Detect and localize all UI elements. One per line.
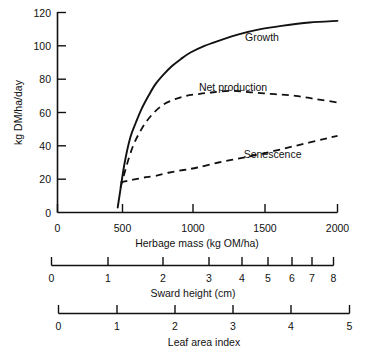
y-tick-label-120: 120: [33, 7, 51, 19]
sward-tick-label-6: 6: [289, 272, 295, 284]
primary-x-tick-labels: 0 500 1000 1500 2000: [55, 222, 350, 234]
primary-y-axis: [58, 12, 67, 213]
sward-tick-label-1: 1: [105, 272, 111, 284]
x-tick-label-0: 0: [55, 222, 61, 234]
sward-tick-label-2: 2: [160, 272, 166, 284]
series-label-net-production: Net production: [199, 81, 267, 93]
series-line-net-production: [121, 91, 338, 188]
x-tick-label-500: 500: [114, 222, 132, 234]
sward-tick-label-5: 5: [265, 272, 271, 284]
leaf-area-index-tick-labels: 0 1 2 3 4 5: [56, 320, 353, 332]
y-tick-label-60: 60: [39, 107, 51, 119]
sward-height-tick-labels: 0 1 2 3 4 5 6 7 8: [49, 272, 337, 284]
lai-tick-label-3: 3: [230, 320, 236, 332]
series-label-growth: Growth: [245, 31, 279, 43]
sward-tick-label-3: 3: [206, 272, 212, 284]
grassland-growth-figure: 120 100 80 60 40 20 0 kg DM/ha/day 0 500…: [0, 0, 368, 358]
x-axis-title: Herbage mass (kg OM/ha): [135, 237, 259, 249]
sward-height-axis: [52, 257, 334, 266]
sward-tick-label-8: 8: [331, 272, 337, 284]
lai-tick-label-4: 4: [288, 320, 294, 332]
chart-canvas: 120 100 80 60 40 20 0 kg DM/ha/day 0 500…: [0, 0, 368, 358]
leaf-area-index-axis-title: Leaf area index: [168, 336, 241, 348]
y-tick-label-40: 40: [39, 140, 51, 152]
y-tick-label-100: 100: [33, 40, 51, 52]
leaf-area-index-axis: [59, 305, 350, 314]
primary-y-tick-labels: 120 100 80 60 40 20 0: [33, 7, 51, 219]
x-tick-label-1500: 1500: [253, 222, 277, 234]
y-tick-label-0: 0: [45, 207, 51, 219]
lai-tick-label-1: 1: [114, 320, 120, 332]
series-line-senescence: [121, 136, 338, 183]
primary-x-axis: [58, 204, 338, 213]
x-tick-label-1000: 1000: [181, 222, 205, 234]
sward-height-axis-title: Sward height (cm): [150, 287, 235, 299]
sward-tick-label-4: 4: [239, 272, 245, 284]
lai-tick-label-2: 2: [172, 320, 178, 332]
lai-tick-label-0: 0: [56, 320, 62, 332]
y-tick-label-20: 20: [39, 173, 51, 185]
series-line-growth: [118, 21, 338, 208]
sward-tick-label-7: 7: [309, 272, 315, 284]
lai-tick-label-5: 5: [347, 320, 353, 332]
x-tick-label-2000: 2000: [326, 222, 350, 234]
sward-tick-label-0: 0: [49, 272, 55, 284]
y-axis-title: kg DM/ha/day: [12, 79, 24, 145]
series-label-senescence: Senescence: [244, 148, 302, 160]
y-tick-label-80: 80: [39, 73, 51, 85]
